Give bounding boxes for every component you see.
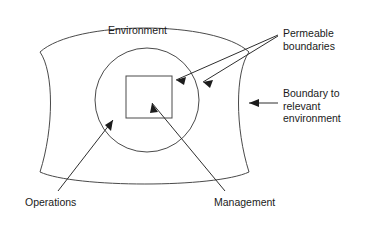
arrow-boundary-to-outer — [249, 99, 278, 107]
arrow-management — [150, 103, 225, 191]
arrow-permeable-to-circle — [203, 36, 278, 88]
label-boundary-to-relevant-environment: Boundary to relevant environment — [283, 87, 341, 125]
arrow-operations — [58, 120, 113, 191]
label-operations: Operations — [25, 196, 76, 209]
operations-circle — [95, 48, 199, 152]
label-permeable-boundaries: Permeable boundaries — [283, 27, 335, 52]
systems-boundary-diagram: Environment Permeable boundaries Boundar… — [0, 0, 368, 226]
label-environment: Environment — [108, 24, 167, 37]
management-square — [126, 76, 172, 118]
label-management: Management — [214, 196, 275, 209]
arrow-permeable-to-square — [176, 35, 278, 85]
outer-boundary-shape — [40, 28, 249, 184]
